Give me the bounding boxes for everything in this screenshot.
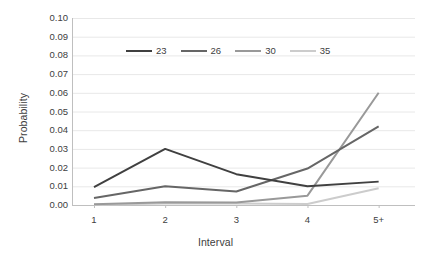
legend-label-26: 26 (211, 46, 222, 56)
legend-item-23[interactable]: 23 (126, 46, 167, 56)
legend-label-30: 30 (265, 46, 276, 56)
legend-swatch-26 (181, 50, 207, 52)
legend-item-26[interactable]: 26 (181, 46, 222, 56)
legend-item-35[interactable]: 35 (290, 46, 331, 56)
line-chart: Probability Interval 0.100.090.080.070.0… (0, 0, 431, 260)
legend-item-30[interactable]: 30 (235, 46, 276, 56)
legend-swatch-23 (126, 50, 152, 52)
x-axis-tick-label: 2 (145, 215, 185, 225)
legend-label-35: 35 (320, 46, 331, 56)
legend-label-23: 23 (156, 46, 167, 56)
legend-swatch-35 (290, 50, 316, 52)
legend-swatch-30 (235, 50, 261, 52)
x-axis-tick-label: 1 (74, 215, 114, 225)
x-axis-tick-label: 3 (216, 215, 256, 225)
x-axis-tick-label: 4 (287, 215, 327, 225)
legend: 23263035 (126, 44, 330, 58)
x-axis-tick-labels: 12345+ (0, 0, 431, 260)
x-axis-tick-label: 5+ (359, 215, 399, 225)
